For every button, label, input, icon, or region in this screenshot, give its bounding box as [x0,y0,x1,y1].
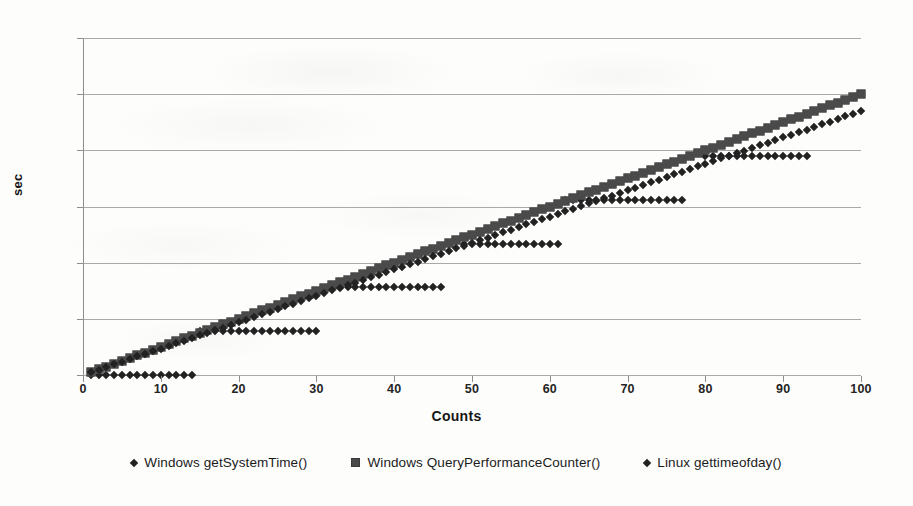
data-point [312,327,320,335]
data-point [437,283,445,291]
x-axis-title: Counts [0,408,913,424]
legend-label: Linux gettimeofday() [657,455,781,470]
data-point [553,239,561,247]
legend-diamond-icon [643,458,651,466]
gridline [83,263,861,264]
x-tick-label: 0 [79,382,86,396]
chart-legend: Windows getSystemTime()Windows QueryPerf… [0,455,913,470]
data-point [297,327,305,335]
data-point [359,283,367,291]
gridline [83,207,861,208]
data-point [724,152,732,160]
legend-item-2[interactable]: Windows QueryPerformanceCounter() [351,455,600,470]
gridline [83,94,861,95]
legend-item-1[interactable]: Windows getSystemTime() [131,455,307,470]
y-axis-title: sec [10,173,25,196]
data-point [367,283,375,291]
legend-label: Windows QueryPerformanceCounter() [367,455,600,470]
data-point [406,283,414,291]
x-tick-label: 70 [620,382,634,396]
x-tick-label: 10 [154,382,168,396]
x-tick-label: 50 [465,382,479,396]
data-point [258,327,266,335]
plot-area [83,38,861,375]
x-tick-label: 100 [850,382,871,396]
gridline [83,319,861,320]
legend-label: Windows getSystemTime() [144,455,307,470]
data-point [429,283,437,291]
x-tick-label: 40 [387,382,401,396]
data-point [678,196,686,204]
x-tick-label: 90 [776,382,790,396]
data-point [686,165,694,173]
gridline [83,38,861,39]
legend-square-icon [351,458,360,467]
data-point [857,90,866,99]
data-point [857,107,865,115]
data-point [398,283,406,291]
data-point [265,327,273,335]
chart-figure: 00.020.040.060.080.10.12 010203040506070… [0,0,913,506]
x-tick-label: 30 [309,382,323,396]
legend-item-3[interactable]: Linux gettimeofday() [644,455,781,470]
x-tick-label: 60 [543,382,557,396]
legend-diamond-icon [130,458,138,466]
x-tick-label: 80 [698,382,712,396]
data-point [188,371,196,379]
data-point [802,152,810,160]
x-tick-label: 20 [231,382,245,396]
